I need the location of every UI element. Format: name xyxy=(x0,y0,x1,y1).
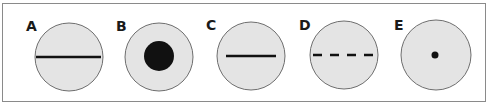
panel-c xyxy=(217,22,285,90)
diagram-shapes xyxy=(0,0,490,106)
panel-a xyxy=(35,23,103,91)
panel-e xyxy=(401,20,471,90)
panel-b xyxy=(125,23,193,91)
large-dot-mark xyxy=(144,41,174,71)
panel-d xyxy=(310,21,378,89)
small-dot-mark xyxy=(432,52,439,59)
